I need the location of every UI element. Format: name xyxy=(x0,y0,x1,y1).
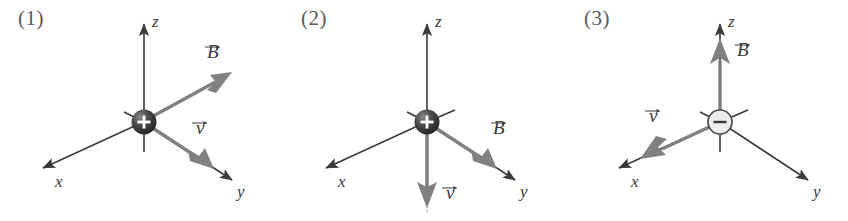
panel-1: (1) z x y B v xyxy=(0,0,283,221)
negative-charge xyxy=(708,110,732,134)
vector-label-v: v xyxy=(196,118,204,137)
panel-2: (2) z x y B v xyxy=(283,0,566,221)
panel-number: (2) xyxy=(301,6,327,31)
vector-v xyxy=(640,124,716,159)
vector-label-B: B xyxy=(493,118,505,137)
axis-label-z: z xyxy=(435,12,442,32)
vector-label-v: v xyxy=(446,183,454,202)
positive-charge xyxy=(132,110,157,135)
panel-3-graphic xyxy=(566,0,848,221)
panel-number: (1) xyxy=(18,6,44,31)
axis-label-x: x xyxy=(631,172,639,192)
vector-label-B: B xyxy=(207,42,219,61)
vector-B xyxy=(146,72,232,120)
panel-3: (3) z x y B v xyxy=(566,0,848,221)
panel-number: (3) xyxy=(584,6,610,31)
physics-diagram-figure: (1) z x y B v xyxy=(0,0,848,221)
axis-label-y: y xyxy=(237,182,245,202)
vector-label-v: v xyxy=(649,106,657,125)
axis-label-y: y xyxy=(520,182,528,202)
y-axis xyxy=(720,122,808,180)
vector-B xyxy=(431,125,497,169)
axis-label-x: x xyxy=(338,172,346,192)
vector-v xyxy=(417,128,437,208)
axis-label-z: z xyxy=(152,12,159,32)
positive-charge xyxy=(415,110,440,135)
axis-label-y: y xyxy=(813,182,821,202)
axis-label-x: x xyxy=(55,172,63,192)
vector-label-B: B xyxy=(737,40,749,59)
axis-label-z: z xyxy=(728,12,735,32)
vector-B xyxy=(710,38,730,116)
